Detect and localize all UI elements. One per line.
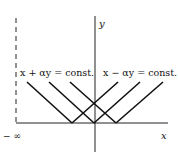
descending-lines — [27, 82, 116, 123]
characteristics-diagram: y x − ∞ x + αy = const. x − αy = const. — [0, 0, 178, 158]
neg-infinity-label: − ∞ — [3, 131, 21, 141]
ascending-lines — [72, 82, 163, 123]
left-family-label: x + αy = const. — [20, 67, 94, 78]
y-axis-label: y — [98, 18, 105, 29]
right-family-label: x − αy = const. — [103, 67, 177, 78]
x-axis-label: x — [161, 130, 167, 141]
